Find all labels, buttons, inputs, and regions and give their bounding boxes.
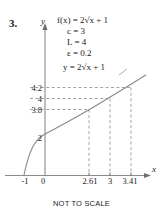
x-tick-label-3-41: 3.41 — [119, 176, 141, 186]
parameter-epsilon: ε = 0.2 — [57, 49, 108, 60]
y-axis-label: y — [41, 17, 45, 26]
curve-label-leader — [119, 69, 127, 75]
y-tick-label-4: 4 — [14, 94, 42, 104]
y-tick-label-4-2: 4.2 — [14, 83, 42, 93]
x-tick-label-2-61: 2.61 — [79, 176, 101, 186]
x-axis-label: x — [152, 165, 156, 174]
problem-number: 3. — [9, 18, 17, 29]
y-tick-label-3-8: 3.8 — [14, 105, 42, 115]
figure-container: 3. y x f(x) = 2√x + 1 c = 3 L = 4 ε = 0.… — [0, 0, 163, 216]
curve-label: y = 2√x + 1 — [63, 63, 105, 72]
annotation-block: f(x) = 2√x + 1 c = 3 L = 4 ε = 0.2 — [57, 16, 108, 60]
x-tick-label-minus-1: -1 — [18, 176, 32, 186]
x-axis-arrowhead — [144, 173, 151, 178]
function-curve — [24, 75, 146, 175]
x-tick-label-3: 3 — [104, 176, 116, 186]
figure-caption: NOT TO SCALE — [0, 200, 163, 208]
x-tick-label-0: 0 — [36, 176, 50, 186]
y-tick-label-2: 2 — [22, 133, 42, 143]
